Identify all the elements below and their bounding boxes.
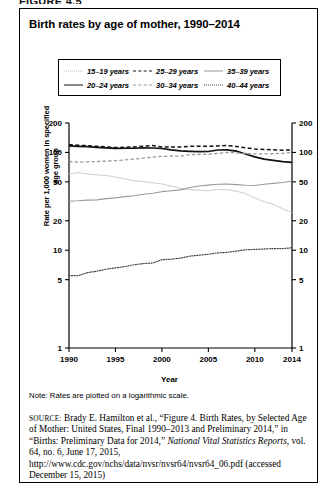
x-tick-label: 2000 [153, 355, 171, 364]
y-tick-label-right: 50 [299, 178, 308, 187]
y-tick-label-right: 100 [299, 148, 313, 157]
series-line-20-24 [69, 146, 292, 163]
series-line-25-29 [69, 145, 292, 151]
x-tick-label: 2005 [199, 355, 217, 364]
figure-page: FIGURE 4.5 Birth rates by age of mother,… [0, 0, 333, 491]
y-tick-label-left: 5 [58, 276, 63, 285]
y-tick-label-right: 5 [299, 276, 304, 285]
series-line-15-19 [69, 173, 292, 213]
series-line-40-44 [69, 248, 292, 276]
y-tick-label-left: 1 [58, 344, 63, 353]
series-line-35-39 [69, 181, 292, 201]
x-axis-label: Year [20, 375, 319, 384]
y-tick-label-right: 200 [299, 119, 313, 128]
source-label: SOURCE: [29, 414, 62, 423]
source-italic: National Vital Statistics Reports [167, 436, 286, 446]
chart-note: Note: Rates are plotted on a logarithmic… [29, 391, 311, 401]
chart-svg: 1155101020205050100100200200199019952000… [20, 9, 319, 389]
figure-frame: Birth rates by age of mother, 1990–2014 … [19, 8, 318, 483]
y-tick-label-right: 10 [299, 246, 308, 255]
figure-header: FIGURE 4.5 [19, 0, 82, 4]
y-axis-label: Rate per 1,000 women in specified age gr… [42, 101, 60, 231]
x-tick-label: 2010 [246, 355, 264, 364]
chart-source: SOURCE: Brady E. Hamilton et al., “Figur… [29, 413, 313, 481]
x-tick-label: 1995 [107, 355, 125, 364]
y-tick-label-left: 10 [53, 246, 62, 255]
x-tick-label: 2014 [283, 355, 301, 364]
y-tick-label-right: 1 [299, 344, 304, 353]
y-tick-label-right: 20 [299, 217, 308, 226]
x-tick-label: 1990 [60, 355, 78, 364]
